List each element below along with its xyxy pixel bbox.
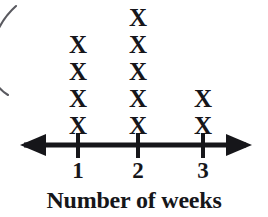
axis-title: Number of weeks	[0, 186, 268, 214]
axis-tick-label-2: 2	[118, 158, 158, 184]
x-mark: X	[129, 85, 147, 112]
x-mark: X	[129, 58, 147, 85]
dot-plot-figure: XXXX XXXXX XX 1 2 3 Number of weeks	[0, 0, 268, 217]
axis-tick-label-1: 1	[58, 158, 98, 184]
x-stack-column-1: XXXX	[58, 31, 98, 139]
x-mark: X	[69, 31, 87, 58]
x-mark: X	[129, 31, 147, 58]
x-mark: X	[69, 85, 87, 112]
axis-arrow-left	[20, 134, 46, 156]
scan-artifact-arc	[0, 4, 24, 96]
x-mark: X	[69, 58, 87, 85]
x-mark: X	[194, 85, 212, 112]
axis-tick-labels: 1 2 3	[0, 158, 268, 188]
axis-arrow-right	[226, 134, 252, 156]
axis-tick-label-3: 3	[183, 158, 223, 184]
x-mark: X	[129, 4, 147, 31]
x-stack-column-2: XXXXX	[118, 4, 158, 139]
